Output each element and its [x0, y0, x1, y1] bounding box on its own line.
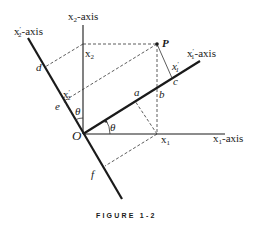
- figure-caption: FIGURE 1-2: [96, 212, 157, 219]
- point-a-label: a: [134, 86, 140, 98]
- x1-prime-coordinate-label: x′1: [171, 60, 179, 74]
- point-c-label: c: [173, 75, 178, 87]
- point-p-label: P: [162, 37, 169, 49]
- x2-prime-axis-label: x′2-axis: [14, 25, 43, 39]
- theta-arc-upper: [75, 118, 83, 120]
- point-b-label: b: [159, 88, 165, 100]
- point-f-label: f: [91, 168, 96, 180]
- x1-prime-axis-label: x′1-axis: [187, 47, 216, 61]
- line-p-to-c: [157, 44, 172, 78]
- dash-e-segment: [64, 101, 72, 114]
- point-p-marker: [155, 42, 159, 46]
- point-d-label: d: [36, 61, 42, 73]
- origin-label: O: [72, 128, 82, 143]
- x2-axis-label: x2-axis: [68, 10, 98, 24]
- x1-axis-label: x1-axis: [213, 132, 243, 146]
- x1-prime-axis-line: [83, 61, 200, 134]
- theta-upper-label: θ: [75, 105, 81, 117]
- dash-x2-to-d: [45, 44, 83, 67]
- x2-prime-coordinate-label: x′2: [63, 88, 71, 102]
- dash-x1-to-f: [105, 134, 157, 166]
- dash-x1-to-a: [135, 101, 157, 134]
- dash-p-to-x2prime: [64, 44, 157, 101]
- x2-coordinate-label: x2: [85, 47, 95, 61]
- x1-coordinate-label: x1: [161, 133, 171, 147]
- point-e-label: e: [55, 100, 60, 112]
- theta-lower-label: θ: [110, 121, 116, 133]
- rotated-axes-diagram: x2-axis x′2-axis x′1-axis x1-axis x2 x1 …: [0, 0, 261, 231]
